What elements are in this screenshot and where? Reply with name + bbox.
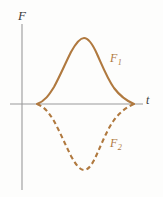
- curve-label-f2-letter: F: [110, 136, 117, 150]
- curve-label-f2-subscript: 2: [118, 143, 122, 152]
- vertical-axis-label: F: [18, 9, 26, 22]
- curve-label-f2: F2: [110, 137, 121, 149]
- force-time-figure: F t F1 F2: [0, 0, 163, 197]
- curve-f1: [37, 38, 134, 104]
- curve-label-f1: F1: [110, 52, 121, 64]
- plot-canvas: [0, 0, 163, 197]
- curve-label-f1-letter: F: [110, 51, 117, 65]
- curve-label-f1-subscript: 1: [118, 58, 122, 67]
- horizontal-axis-label: t: [146, 94, 149, 106]
